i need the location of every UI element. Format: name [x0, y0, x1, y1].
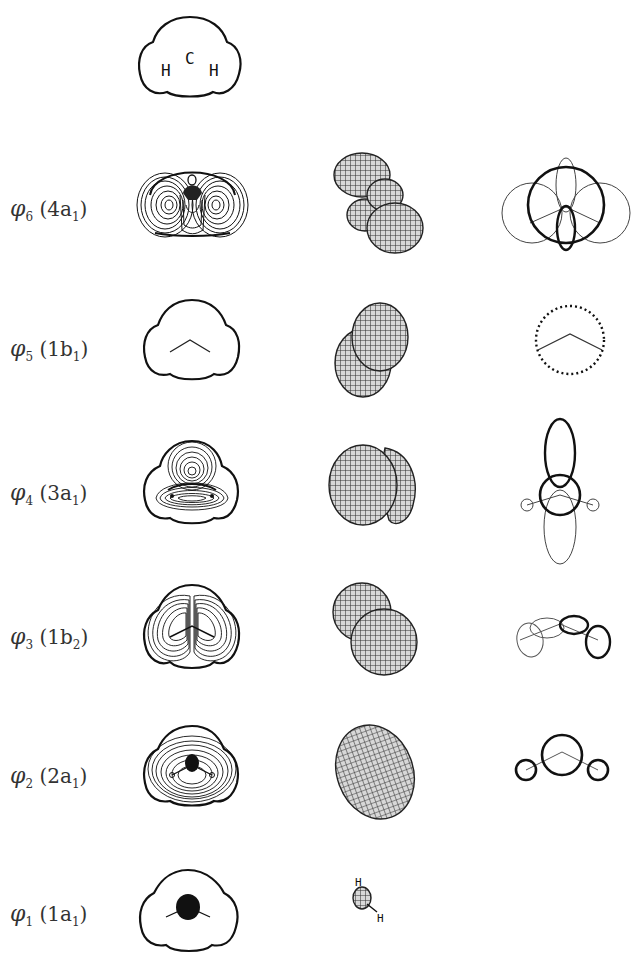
lcao-phi6 [500, 155, 635, 255]
header-molecule-outline: H C H [135, 12, 245, 102]
mesh-phi1: H H [345, 870, 395, 925]
contour-phi2 [140, 723, 245, 808]
contour-phi3 [140, 582, 245, 672]
atom-h-left: H [161, 61, 171, 80]
mesh-phi6 [330, 150, 430, 260]
label-phi3: φ3 (1b2) [10, 624, 88, 652]
label-phi4: φ4 (3a1) [10, 480, 87, 508]
mesh-phi3 [325, 575, 425, 685]
contour-phi4 [140, 438, 245, 528]
label-phi2: φ2 (2a1) [10, 763, 87, 791]
mesh-phi4 [325, 440, 425, 535]
contour-phi5 [140, 297, 245, 382]
atom-h-right: H [209, 61, 219, 80]
label-phi6: φ6 (4a1) [10, 196, 87, 224]
atom-c: C [185, 49, 195, 68]
lcao-phi3 [510, 610, 610, 665]
mesh-phi5 [330, 295, 420, 405]
lcao-phi5 [530, 300, 610, 380]
mesh-atom-h-bottom: H [377, 912, 384, 925]
label-phi1: φ1 (1a1) [10, 901, 87, 929]
lcao-phi2 [512, 730, 612, 785]
mesh-phi2 [325, 720, 425, 825]
lcao-phi4 [515, 415, 605, 570]
label-phi5: φ5 (1b1) [10, 336, 88, 364]
contour-phi1 [136, 867, 244, 952]
mesh-atom-h-top: H [355, 876, 362, 889]
contour-phi6 [135, 155, 250, 240]
